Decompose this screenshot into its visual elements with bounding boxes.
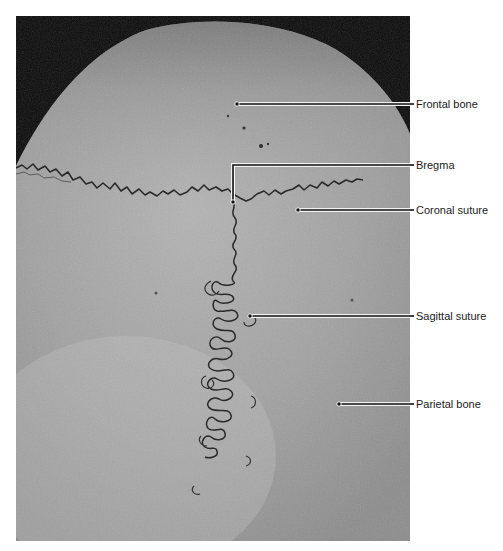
- anatomical-figure: Frontal bone Bregma Coronal suture Sagit…: [0, 0, 503, 551]
- label-bregma: Bregma: [416, 159, 455, 171]
- label-frontal-bone: Frontal bone: [416, 98, 478, 110]
- label-coronal-suture: Coronal suture: [416, 204, 488, 216]
- skull-photograph: [16, 16, 410, 541]
- label-sagittal-suture: Sagittal suture: [416, 310, 486, 322]
- label-parietal-bone: Parietal bone: [416, 398, 481, 410]
